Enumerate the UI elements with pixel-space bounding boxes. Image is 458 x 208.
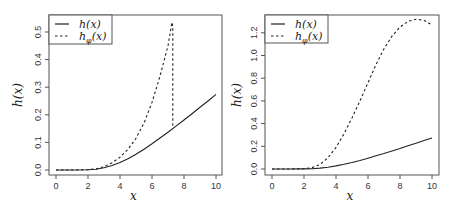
x-axis-label: x: [130, 189, 137, 203]
x-tick-label: 10: [211, 181, 221, 191]
x-tick-label: 6: [149, 181, 154, 191]
y-tick-label: 0.8: [249, 72, 259, 85]
x-tick-label: 0: [53, 181, 58, 191]
x-tick-label: 8: [397, 181, 402, 191]
x-tick-label: 4: [117, 181, 122, 191]
x-axis-label: x: [347, 189, 354, 203]
y-tick-label: 0.4: [33, 53, 43, 66]
x-tick-label: 10: [427, 181, 437, 191]
y-tick-label: 0.0: [249, 163, 259, 176]
y-tick-label: 0.2: [249, 140, 259, 153]
y-tick-label: 0.0: [33, 164, 43, 177]
x-tick-label: 2: [301, 181, 306, 191]
y-tick-label: 0.6: [249, 95, 259, 108]
y-axis-label: h(x): [11, 83, 25, 107]
y-tick-label: 0.3: [33, 81, 43, 94]
y-tick-label: 0.5: [33, 26, 43, 39]
y-tick-label: 0.4: [249, 117, 259, 130]
chart-canvas: 02468100.00.10.20.30.40.5xh(x)h(x)hφ(x)0…: [0, 0, 458, 208]
y-tick-label: 1.0: [249, 49, 259, 62]
series-h-line: [56, 94, 216, 170]
x-tick-label: 6: [365, 181, 370, 191]
series-h-line: [272, 138, 432, 169]
y-axis-label: h(x): [230, 83, 244, 107]
x-tick-label: 4: [333, 181, 338, 191]
x-tick-label: 8: [181, 181, 186, 191]
x-tick-label: 2: [85, 181, 90, 191]
legend-label-h-phi: hφ(x): [295, 30, 323, 45]
legend-label-h-phi: hφ(x): [79, 30, 107, 45]
y-tick-label: 1.2: [249, 27, 259, 40]
y-tick-label: 0.2: [33, 109, 43, 122]
y-tick-label: 0.1: [33, 136, 43, 149]
x-tick-label: 0: [269, 181, 274, 191]
